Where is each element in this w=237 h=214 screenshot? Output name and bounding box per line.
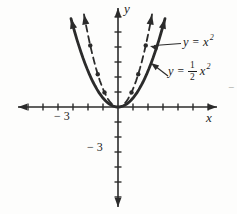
equals-sign: =	[193, 37, 200, 49]
x-axis-label: x	[206, 111, 212, 124]
equals-sign: =	[178, 66, 185, 78]
equation-exponent: 2	[206, 63, 210, 71]
x-tick-label-neg3: − 3	[54, 110, 70, 122]
fraction-numerator: 1	[188, 60, 197, 72]
y-axis-label: y	[124, 2, 130, 15]
equation-base: x	[200, 65, 206, 78]
fraction-denominator: 2	[190, 72, 195, 83]
equation-exponent: 2	[210, 34, 214, 42]
plot-canvas	[0, 0, 237, 214]
parabola-comparison-figure: y x − 3 − 3 y=x2 y=12x2 −	[0, 0, 237, 214]
equation-lhs: y	[183, 36, 189, 49]
equation-base: x	[203, 36, 209, 49]
equation-lhs: y	[168, 65, 174, 78]
stray-dash-mark: −	[228, 82, 234, 93]
one-half-fraction: 12	[188, 60, 197, 83]
y-tick-label-neg3: − 3	[87, 141, 103, 153]
equation-label-half-x-squared: y=12x2	[168, 60, 210, 83]
equation-label-x-squared: y=x2	[183, 36, 214, 49]
